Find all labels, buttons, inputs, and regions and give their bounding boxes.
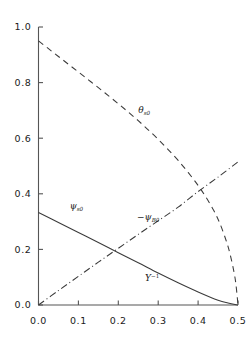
annotation-theta-s0: θs0 — [138, 105, 150, 116]
annotation-psi-s0: ψs0 — [70, 201, 84, 212]
series-line-theta_s0 — [39, 41, 239, 305]
x-tick-label: 0.4 — [190, 315, 207, 326]
y-tick-label: 0.0 — [15, 299, 32, 310]
y-tick-label: 0.8 — [15, 77, 32, 88]
x-tick-label: 0.2 — [110, 315, 127, 326]
series-line-psi_s0 — [39, 212, 239, 305]
x-tick-label: 0.5 — [230, 315, 247, 326]
y-tick-label: 0.6 — [15, 133, 32, 144]
annotation-minus-psi-B0: −ψB0 — [137, 212, 160, 223]
chart-plot-area: 0.00.10.20.30.40.50.00.20.40.60.81.0θs0ψ… — [0, 0, 250, 342]
x-tick-label: 0.1 — [70, 315, 87, 326]
y-tick-label: 1.0 — [15, 21, 32, 32]
series-line-minus_psi_B0 — [39, 162, 239, 305]
y-tick-label: 0.4 — [15, 188, 32, 199]
annotation-Y-inverse: Y−1 — [145, 273, 159, 283]
x-tick-label: 0.3 — [150, 315, 167, 326]
x-tick-label: 0.0 — [30, 315, 47, 326]
y-tick-label: 0.2 — [15, 244, 32, 255]
chart-figure: 0.00.10.20.30.40.50.00.20.40.60.81.0θs0ψ… — [0, 0, 250, 342]
